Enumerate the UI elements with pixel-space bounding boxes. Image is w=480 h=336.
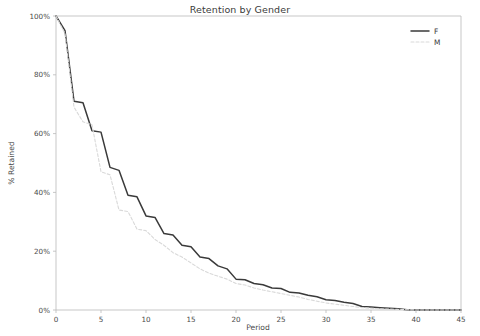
retention-line-chart: 051015202530354045 0%20%40%60%80%100% Pe…: [0, 0, 480, 336]
x-tick-label: 35: [366, 315, 375, 324]
chart-figure: Retention by Gender 051015202530354045 0…: [0, 0, 480, 336]
series-line-f: [56, 16, 461, 310]
legend: FM: [411, 27, 440, 47]
y-tick-label: 40%: [34, 188, 50, 197]
series-line-m: [56, 16, 461, 310]
y-tick-label: 80%: [34, 70, 50, 79]
series-layer: [56, 16, 461, 310]
y-tick-label: 20%: [34, 247, 50, 256]
legend-label-m: M: [434, 38, 440, 47]
legend-label-f: F: [434, 27, 438, 36]
y-tick-label: 60%: [34, 129, 50, 138]
x-axis-title: Period: [246, 323, 270, 332]
x-tick-label: 30: [321, 315, 331, 324]
y-tick-label: 100%: [29, 12, 50, 21]
y-tick-label: 0%: [39, 306, 51, 315]
x-tick-label: 0: [54, 315, 59, 324]
y-axis-ticks: 0%20%40%60%80%100%: [29, 12, 56, 315]
y-axis-title: % Retained: [7, 141, 16, 184]
x-tick-label: 15: [186, 315, 195, 324]
x-axis-ticks: 051015202530354045: [54, 310, 466, 324]
x-tick-label: 10: [141, 315, 151, 324]
x-tick-label: 25: [276, 315, 285, 324]
x-tick-label: 20: [231, 315, 241, 324]
x-tick-label: 5: [99, 315, 104, 324]
x-tick-label: 40: [411, 315, 421, 324]
x-tick-label: 45: [456, 315, 465, 324]
